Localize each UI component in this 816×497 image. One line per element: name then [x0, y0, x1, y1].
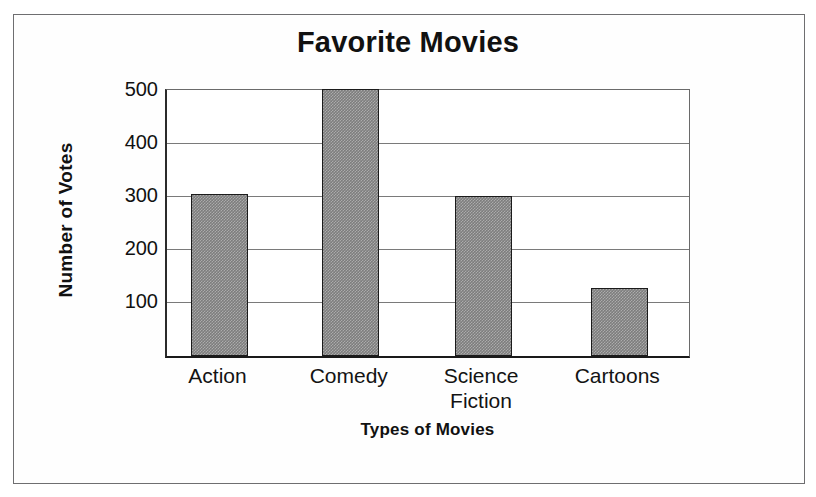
y-tick-label-500: 500 — [96, 79, 158, 99]
x-tick-label-action: Action — [152, 363, 283, 388]
x-tick-label-line: Action — [152, 363, 283, 388]
bar-chart-figure: Favorite Movies Number of Votes 10020030… — [0, 0, 816, 497]
y-tick-label-300: 300 — [96, 185, 158, 205]
gridline-400 — [167, 143, 689, 144]
bar-cartoons — [591, 288, 648, 356]
plot-area — [165, 89, 690, 358]
x-tick-label-comedy: Comedy — [283, 363, 414, 388]
y-axis-title: Number of Votes — [55, 142, 77, 297]
chart-title: Favorite Movies — [0, 26, 816, 59]
y-tick-label-100: 100 — [96, 291, 158, 311]
x-axis-title: Types of Movies — [165, 420, 690, 440]
y-axis-title-container: Number of Votes — [44, 80, 88, 360]
y-tick-label-200: 200 — [96, 238, 158, 258]
x-tick-label-science-fiction: ScienceFiction — [415, 363, 546, 413]
x-axis-tick-labels: ActionComedyScienceFictionCartoons — [165, 363, 690, 425]
bar-action — [191, 194, 248, 356]
x-tick-label-line: Cartoons — [552, 363, 683, 388]
y-axis-tick-labels: 100200300400500 — [96, 89, 158, 358]
x-tick-label-line: Fiction — [415, 388, 546, 413]
bar-comedy — [322, 89, 379, 356]
bar-science-fiction — [455, 196, 512, 356]
x-tick-label-line: Comedy — [283, 363, 414, 388]
y-tick-label-400: 400 — [96, 132, 158, 152]
x-tick-label-cartoons: Cartoons — [552, 363, 683, 388]
x-tick-label-line: Science — [415, 363, 546, 388]
